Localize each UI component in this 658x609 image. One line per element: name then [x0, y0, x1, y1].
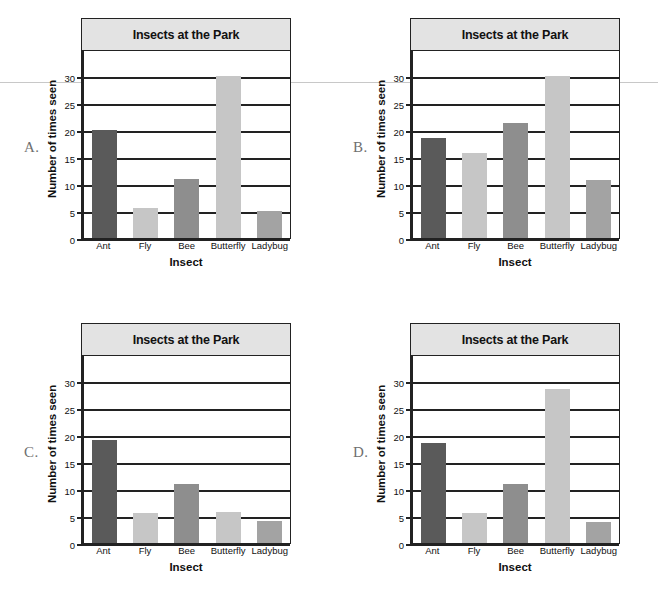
chart-title-bar: Insects at the Park	[411, 324, 619, 356]
bar-butterfly	[216, 76, 241, 238]
chart-frame: Insects at the Park 051015202530	[410, 323, 620, 544]
y-tick-20	[77, 436, 82, 438]
x-axis-label: Insect	[410, 561, 620, 573]
x-tick-label-ant: Ant	[83, 240, 125, 251]
x-tick-label-bee: Bee	[495, 545, 537, 556]
y-tick-label-5: 5	[70, 208, 75, 219]
y-tick-label-20: 20	[64, 432, 75, 443]
y-tick-25	[406, 104, 411, 106]
y-tick-label-20: 20	[393, 127, 404, 138]
y-tick-15	[406, 463, 411, 465]
chart-panel-d: D. Number of times seen Insects at the P…	[329, 305, 658, 609]
chart-title: Insects at the Park	[133, 333, 240, 347]
chart-title-bar: Insects at the Park	[82, 19, 290, 51]
bar-group	[84, 51, 290, 238]
x-tick-label-butterfly: Butterfly	[207, 545, 249, 556]
y-tick-25	[406, 409, 411, 411]
y-tick-25	[77, 409, 82, 411]
x-tick-label-fly: Fly	[124, 240, 166, 251]
x-tick-label-ant: Ant	[412, 240, 454, 251]
chart-frame: Insects at the Park 051015202530	[81, 323, 291, 544]
x-tick-label-bee: Bee	[166, 545, 208, 556]
chart-frame: Insects at the Park 051015202530	[81, 18, 291, 239]
y-tick-label-5: 5	[399, 208, 404, 219]
option-letter-a: A.	[24, 139, 40, 156]
y-tick-10	[406, 490, 411, 492]
chart-frame: Insects at the Park 051015202530	[410, 18, 620, 239]
y-tick-label-25: 25	[64, 100, 75, 111]
bar-fly	[133, 513, 158, 543]
x-tick-label-fly: Fly	[453, 545, 495, 556]
y-tick-30	[406, 382, 411, 384]
y-tick-label-25: 25	[64, 405, 75, 416]
bar-fly	[462, 513, 487, 543]
plot-area: 051015202530	[411, 51, 619, 238]
y-axis-label: Number of times seen	[46, 54, 60, 224]
y-tick-20	[77, 131, 82, 133]
y-tick-label-30: 30	[64, 378, 75, 389]
y-tick-15	[77, 158, 82, 160]
x-tick-labels: AntFlyBeeButterflyLadybug	[83, 240, 291, 251]
bar-butterfly	[545, 76, 570, 238]
y-tick-10	[406, 185, 411, 187]
bar-ant	[421, 138, 446, 238]
y-tick-label-25: 25	[393, 405, 404, 416]
option-letter-b: B.	[353, 139, 368, 156]
y-tick-label-20: 20	[393, 432, 404, 443]
y-tick-label-30: 30	[64, 73, 75, 84]
y-tick-15	[77, 463, 82, 465]
bar-group	[413, 356, 619, 543]
bar-group	[413, 51, 619, 238]
y-tick-15	[406, 158, 411, 160]
x-tick-label-ladybug: Ladybug	[249, 545, 291, 556]
chart-panel-b: B. Number of times seen Insects at the P…	[329, 0, 658, 304]
y-tick-30	[77, 77, 82, 79]
bar-ant	[92, 130, 117, 238]
y-tick-label-30: 30	[393, 378, 404, 389]
y-tick-30	[77, 382, 82, 384]
plot-area: 051015202530	[82, 356, 290, 543]
y-axis-label: Number of times seen	[375, 359, 389, 529]
y-axis-label: Number of times seen	[46, 359, 60, 529]
bar-butterfly	[545, 389, 570, 543]
y-tick-label-0: 0	[399, 540, 404, 551]
y-tick-5	[406, 517, 411, 519]
y-tick-label-10: 10	[64, 181, 75, 192]
y-tick-label-0: 0	[399, 235, 404, 246]
bar-ant	[421, 443, 446, 543]
x-tick-labels: AntFlyBeeButterflyLadybug	[412, 240, 620, 251]
y-tick-10	[77, 490, 82, 492]
y-tick-20	[406, 131, 411, 133]
bar-group	[84, 356, 290, 543]
x-tick-label-butterfly: Butterfly	[207, 240, 249, 251]
x-tick-label-ant: Ant	[412, 545, 454, 556]
plot-area: 051015202530	[411, 356, 619, 543]
y-tick-5	[77, 212, 82, 214]
bar-bee	[503, 123, 528, 238]
x-tick-labels: AntFlyBeeButterflyLadybug	[412, 545, 620, 556]
bar-ladybug	[586, 180, 611, 238]
bar-bee	[174, 179, 199, 238]
x-tick-label-ant: Ant	[83, 545, 125, 556]
option-letter-c: C.	[24, 444, 39, 461]
x-tick-label-butterfly: Butterfly	[536, 545, 578, 556]
y-tick-label-5: 5	[70, 513, 75, 524]
y-tick-label-10: 10	[64, 486, 75, 497]
y-tick-label-0: 0	[70, 540, 75, 551]
option-letter-d: D.	[353, 444, 369, 461]
y-tick-25	[77, 104, 82, 106]
chart-title: Insects at the Park	[462, 28, 569, 42]
y-tick-label-0: 0	[70, 235, 75, 246]
figure-b: Number of times seen Insects at the Park…	[377, 18, 623, 280]
bar-ant	[92, 440, 117, 543]
y-tick-label-30: 30	[393, 73, 404, 84]
bar-ladybug	[586, 522, 611, 543]
chart-panel-c: C. Number of times seen Insects at the P…	[0, 305, 329, 609]
y-axis-label: Number of times seen	[375, 54, 389, 224]
chart-panel-a: A. Number of times seen Insects at the P…	[0, 0, 329, 304]
x-axis-label: Insect	[410, 256, 620, 268]
x-tick-label-bee: Bee	[495, 240, 537, 251]
plot-area: 051015202530	[82, 51, 290, 238]
x-tick-label-butterfly: Butterfly	[536, 240, 578, 251]
y-tick-label-15: 15	[393, 459, 404, 470]
